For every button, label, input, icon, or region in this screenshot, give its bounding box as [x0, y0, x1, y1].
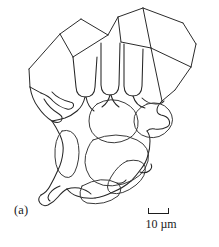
finger-slot	[73, 57, 97, 97]
facet-edge	[162, 90, 175, 101]
cavity	[108, 160, 146, 193]
outer-boundary-segment	[39, 189, 67, 206]
facet-edge	[121, 42, 151, 48]
facet-edge	[183, 23, 196, 44]
scale-bar-label: 10 µm	[133, 217, 189, 232]
cavity	[55, 130, 79, 177]
facet-edge	[151, 48, 191, 67]
facet-edges-upper-left	[29, 19, 108, 93]
facet-edge	[151, 48, 162, 101]
figure-panel: (a) 10 µm	[0, 0, 219, 247]
facet-edges-upper-right	[108, 8, 196, 101]
facet-edge	[191, 44, 196, 67]
panel-label: (a)	[14, 203, 28, 218]
nodule	[48, 186, 60, 201]
internal-struts	[52, 95, 164, 121]
facet-edge	[60, 19, 81, 34]
cavity	[134, 103, 173, 138]
facet-edge	[118, 17, 121, 42]
finger-slot	[101, 43, 120, 95]
scale-bar: 10 µm	[133, 205, 195, 239]
facet-edge	[143, 8, 151, 48]
facet-edge	[73, 35, 108, 57]
facet-edge	[29, 34, 60, 69]
notched-arm-edge	[147, 101, 170, 131]
nodule	[117, 180, 126, 183]
facet-edge	[118, 8, 143, 17]
lower-nodules	[48, 164, 152, 201]
facet-edge	[81, 19, 108, 35]
finger-slot	[124, 44, 143, 96]
scale-bar-bracket	[148, 208, 169, 214]
cavity	[89, 100, 138, 143]
outer-boundary-segment	[41, 121, 63, 195]
facet-edge	[29, 69, 30, 87]
facet-edge	[175, 67, 191, 90]
outer-boundary-segment	[41, 92, 74, 109]
facet-edge	[30, 87, 41, 93]
strut	[111, 95, 119, 107]
facet-edge	[143, 8, 183, 23]
finger-slots	[73, 43, 143, 97]
facet-edge	[108, 17, 118, 35]
facet-edge	[60, 34, 73, 57]
